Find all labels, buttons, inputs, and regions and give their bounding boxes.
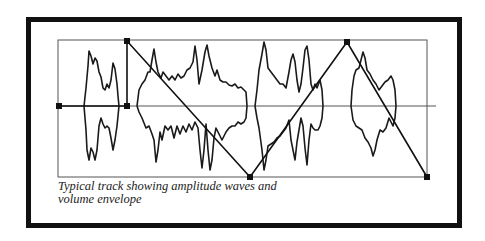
amplitude-wave-clip-4	[351, 52, 396, 156]
envelope-handle-1[interactable]	[56, 103, 62, 109]
envelope-handle-2[interactable]	[124, 103, 130, 109]
envelope-handle-3[interactable]	[124, 38, 130, 44]
envelope-handle-5[interactable]	[344, 39, 350, 45]
amplitude-wave-clip-2	[137, 45, 247, 170]
volume-envelope	[59, 41, 427, 177]
figure-caption: Typical track showing amplitude waves an…	[58, 180, 358, 206]
envelope-handle-6[interactable]	[424, 174, 430, 180]
caption-line-2: volume envelope	[58, 193, 358, 206]
track-box	[58, 40, 427, 177]
